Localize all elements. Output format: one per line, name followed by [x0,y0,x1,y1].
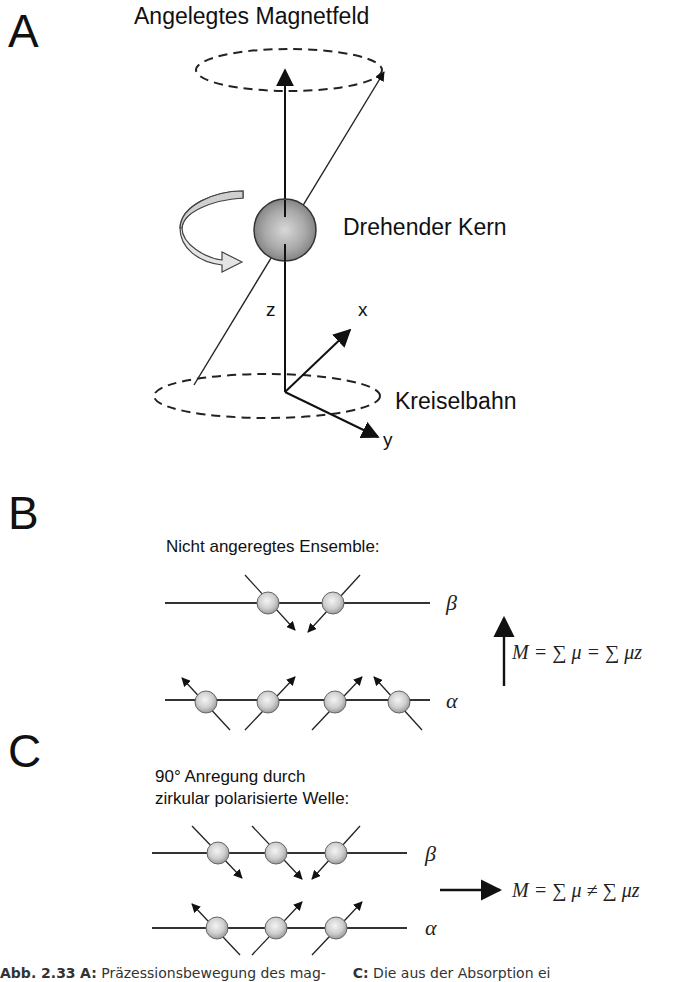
rotation-arrow-icon [180,191,243,272]
panel-a-diagram [154,49,384,437]
caption-part-a-text: Präzessionsbewegung des mag- [101,965,326,981]
spin-alpha-4 [374,677,422,730]
panel-c-diagram [152,826,500,955]
magnetization-equation-b: M = ∑ μ = ∑ μz [512,642,642,662]
z-axis-label: z [266,300,276,319]
precession-orbit-ellipse [154,374,380,418]
spin-c-alpha-1 [192,904,240,955]
panel-c-heading-line1: 90° Anregung durch [155,768,305,785]
alpha-label: α [446,690,458,712]
orbit-label: Kreiselbahn [395,390,516,413]
figure-caption: Abb. 2.33 A: Präzessionsbewegung des mag… [0,965,675,981]
spin-alpha-1 [182,678,230,730]
figure-canvas [0,0,675,982]
caption-part-c-text: Die aus der Absorption ei [373,965,550,981]
beta-label-c: β [425,843,436,865]
nucleus-label: Drehender Kern [343,216,507,239]
x-axis-label: x [358,300,368,319]
y-axis-arrow [285,392,378,437]
caption-part-c-key: C: [353,965,369,981]
spin-alpha-2 [245,677,295,730]
alpha-label-c: α [425,917,437,939]
top-orbit-ellipse [196,49,382,91]
x-axis-arrow [285,330,350,392]
caption-figure-ref: Abb. 2.33 [0,965,76,981]
y-axis-label: y [383,430,393,449]
field-title: Angelegtes Magnetfeld [134,5,369,28]
spin-alpha-3 [312,677,362,730]
panel-b-heading: Nicht angeregtes Ensemble: [166,538,380,555]
magnetization-equation-c: M = ∑ μ ≠ ∑ μz [512,880,640,900]
panel-c-heading-line2: zirkular polarisierte Welle: [155,790,349,807]
caption-part-a-key: A: [80,965,97,981]
beta-label: β [446,592,457,614]
